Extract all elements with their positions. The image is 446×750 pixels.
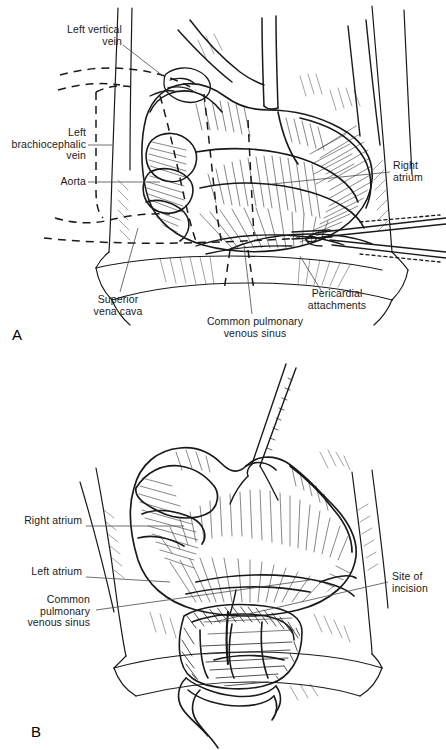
label-common-pulmonary-venous-sinus: Common pulmonary venous sinus — [183, 316, 327, 339]
pericardial-field — [96, 6, 412, 325]
label-pericardial-attachments: Pericardial attachments — [283, 288, 391, 311]
panel-b-illustration — [0, 360, 446, 750]
incision-site — [179, 590, 302, 689]
label-left-atrium: Left atrium — [4, 566, 82, 578]
panel-b: Right atrium Left atrium Common pulmonar… — [0, 360, 446, 750]
label-left-vertical-vein: Left vertical vein — [24, 24, 122, 47]
traction-stitch — [230, 364, 296, 504]
pericardial-field — [80, 468, 388, 696]
heart-hatching — [147, 101, 372, 248]
label-common-pulmonary-venous-sinus: Common pulmonary venous sinus — [2, 594, 90, 629]
surgical-figure: Left vertical vein Left brachiocephalic … — [0, 0, 446, 750]
label-right-atrium: Right atrium — [4, 515, 82, 527]
label-aorta: Aorta — [24, 176, 86, 188]
heart-outline — [131, 448, 357, 616]
leader-lines — [88, 45, 390, 314]
label-right-atrium: Right atrium — [393, 160, 445, 183]
panel-a: Left vertical vein Left brachiocephalic … — [0, 0, 446, 360]
heart-outline — [142, 84, 372, 252]
panel-a-letter: A — [12, 327, 22, 342]
great-vessels — [178, 16, 278, 109]
leader-lines — [86, 526, 388, 622]
label-left-brachiocephalic-vein: Left brachiocephalic vein — [4, 127, 86, 162]
label-site-of-incision: Site of incision — [392, 571, 446, 594]
label-superior-vena-cava: Superior vena cava — [70, 294, 166, 317]
panel-b-letter: B — [31, 724, 41, 739]
